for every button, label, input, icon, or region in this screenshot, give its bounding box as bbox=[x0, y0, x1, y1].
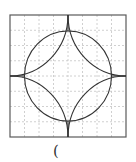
geometry-figure bbox=[0, 0, 136, 162]
answer-parenthesis: ( bbox=[53, 144, 59, 159]
grid bbox=[10, 15, 126, 137]
